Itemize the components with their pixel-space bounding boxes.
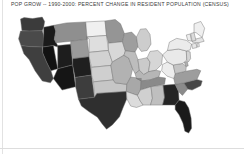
state-nj: New Jersey	[186, 51, 190, 62]
page-rule-left	[2, 0, 3, 154]
state-or: Oregon	[19, 31, 45, 47]
figure-title: POP GROW -- 1990-2000: PERCENT CHANGE IN…	[11, 1, 229, 8]
page-rule-bottom	[0, 148, 244, 149]
state-sd: South Dakota	[87, 35, 108, 52]
state-wi: Wisconsin	[122, 32, 137, 52]
state-al: Alabama	[151, 85, 165, 105]
state-ks: Kansas	[92, 65, 114, 81]
state-me: Maine	[194, 21, 205, 37]
choropleth-map: WashingtonOregonCaliforniaIdahoNevadaUta…	[6, 8, 238, 148]
state-ne: Nebraska	[89, 50, 112, 67]
state-ri: Rhode Island	[197, 43, 199, 47]
state-ct: Connecticut	[192, 43, 197, 48]
state-wa: Washington	[21, 17, 45, 31]
state-fl: Florida	[175, 100, 191, 133]
state-wy: Wyoming	[71, 39, 89, 58]
state-oh: Ohio	[147, 50, 162, 71]
state-mn: Minnesota	[105, 20, 124, 44]
state-ut: Utah	[58, 44, 73, 69]
map-figure: POP GROW -- 1990-2000: PERCENT CHANGE IN…	[0, 0, 244, 154]
state-nm: New Mexico	[75, 75, 94, 99]
state-co: Colorado	[73, 57, 92, 78]
state-mt: Montana	[54, 22, 87, 43]
us-states-svg: WashingtonOregonCaliforniaIdahoNevadaUta…	[6, 8, 238, 148]
state-mi: Michigan	[137, 29, 152, 52]
